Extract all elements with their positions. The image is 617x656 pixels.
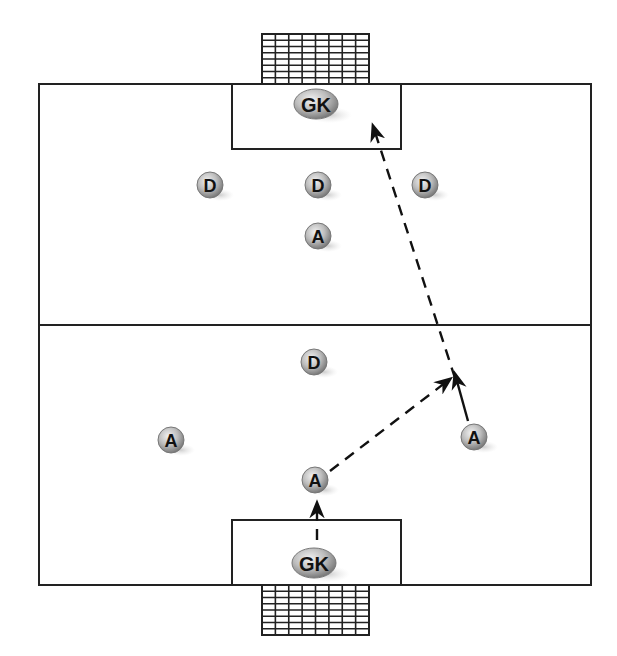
player-label: GK xyxy=(301,94,332,116)
player-label: GK xyxy=(299,553,330,575)
player-label: A xyxy=(312,227,325,247)
player-label: D xyxy=(419,176,432,196)
soccer-field xyxy=(39,84,591,585)
player-label: D xyxy=(204,176,217,196)
field-boundary xyxy=(39,84,591,585)
bottom-net xyxy=(262,585,369,635)
player-label: A xyxy=(468,428,481,448)
soccer-drill-diagram: GKDDDADAAAGK xyxy=(0,0,617,656)
player-label: D xyxy=(308,353,321,373)
player-label: D xyxy=(312,176,325,196)
player-label: A xyxy=(165,431,178,451)
player-label: A xyxy=(309,471,322,491)
top-net xyxy=(262,34,369,84)
